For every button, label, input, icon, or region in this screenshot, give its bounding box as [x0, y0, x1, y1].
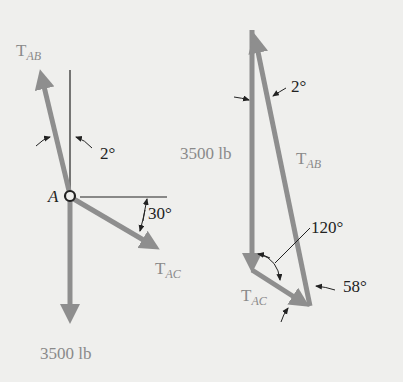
- triangle-angle-2deg-label: 2°: [291, 78, 306, 95]
- angle-arrow-icon: [273, 88, 286, 96]
- tab-force-arrow: [42, 78, 70, 195]
- weight-label: 3500 lb: [40, 345, 91, 362]
- triangle-weight-label: 3500 lb: [180, 145, 231, 162]
- angle-2deg-label: 2°: [100, 145, 115, 162]
- triangle-tab-label-main: T: [296, 149, 306, 168]
- tab-label-main: T: [16, 41, 26, 60]
- triangle-angle-120deg-label: 120°: [311, 219, 343, 236]
- angle-arrow-icon: [143, 199, 147, 221]
- angle-arrow-icon: [258, 254, 270, 258]
- tac-label-main: T: [155, 259, 165, 278]
- angle-arrow-icon: [76, 137, 92, 148]
- triangle-tab-label-subscript: AB: [306, 157, 321, 171]
- triangle-tac-label-main: T: [241, 286, 251, 305]
- tab-label-subscript: AB: [26, 49, 41, 63]
- triangle-tac-label: TAC: [241, 287, 267, 304]
- angle-arrow-icon: [36, 137, 50, 146]
- angle-arrow-icon: [281, 308, 288, 322]
- tac-label: TAC: [155, 260, 181, 277]
- angle-arrow-icon: [234, 97, 249, 100]
- tab-label: TAB: [16, 42, 41, 59]
- tac-force-arrow: [72, 198, 152, 245]
- angle-arrow-icon: [316, 286, 335, 290]
- joint-a-icon: [65, 191, 75, 201]
- triangle-angle-58deg-label: 58°: [343, 278, 367, 295]
- diagram-graphics: [0, 0, 403, 382]
- leader-line: [275, 228, 310, 263]
- triangle-tac-label-subscript: AC: [251, 294, 266, 308]
- point-a-label: A: [48, 188, 58, 205]
- angle-30deg-label: 30°: [148, 205, 172, 222]
- force-triangle: [234, 30, 335, 322]
- triangle-tab-label: TAB: [296, 150, 321, 167]
- tac-label-subscript: AC: [165, 267, 180, 281]
- diagram-stage: TAB 2° A 30° TAC 3500 lb 3500 lb 2° TAB …: [0, 0, 403, 382]
